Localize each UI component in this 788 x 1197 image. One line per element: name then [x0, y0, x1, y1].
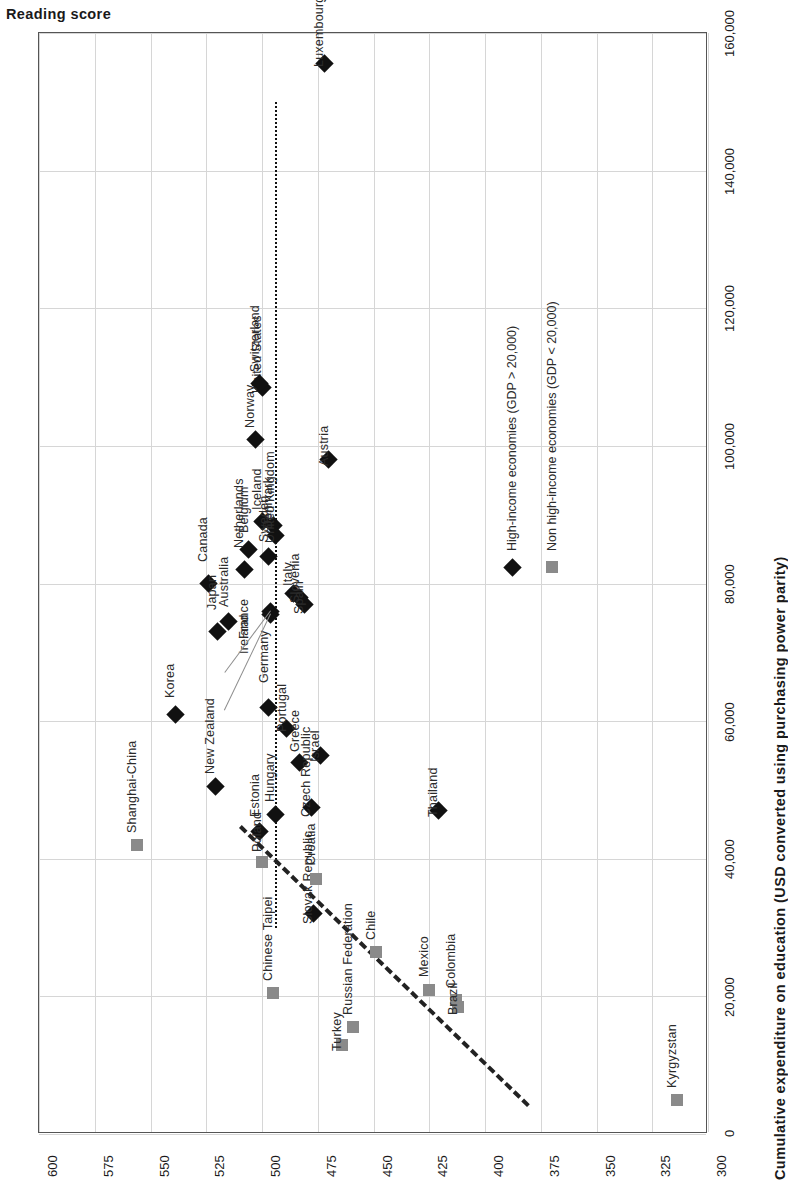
- x-axis-tick-label: 60,000: [722, 702, 737, 742]
- gridline-horizontal: [39, 584, 706, 585]
- y-axis-tick-label: 300: [714, 1155, 729, 1177]
- data-point-label: Sweden: [257, 496, 271, 542]
- data-point-label: Switzerland: [248, 305, 262, 372]
- square-marker-icon: [267, 987, 279, 999]
- y-axis-tick-label: 375: [547, 1155, 562, 1177]
- plot-area: LuxembourgUnited StatesSwitzerlandNorway…: [38, 32, 707, 1133]
- square-marker-icon: [256, 856, 268, 868]
- gridline-horizontal: [39, 171, 706, 172]
- gridline-vertical: [708, 33, 709, 1132]
- y-axis-tick-label: 525: [212, 1155, 227, 1177]
- gridline-horizontal: [39, 308, 706, 309]
- data-point-label: Turkey: [330, 1012, 344, 1051]
- gridline-vertical: [374, 33, 375, 1132]
- data-point-label: Colombia: [444, 933, 458, 987]
- y-axis-tick-label: 550: [157, 1155, 172, 1177]
- y-axis-title: Reading score: [6, 6, 111, 22]
- data-point-label: Luxembourg: [312, 0, 326, 67]
- data-point-label: Canada: [196, 517, 210, 562]
- data-point-label: Shanghai-China: [125, 741, 139, 833]
- data-point-label: Estonia: [248, 774, 262, 817]
- square-marker-icon: [423, 984, 435, 996]
- x-axis-tick-label: 40,000: [722, 840, 737, 880]
- y-axis-tick-label: 350: [603, 1155, 618, 1177]
- data-point-label: Chinese Taipei: [261, 896, 275, 981]
- x-axis-tick-label: 80,000: [722, 564, 737, 604]
- gridline-vertical: [318, 33, 319, 1132]
- gridline-vertical: [652, 33, 653, 1132]
- y-axis-tick-label: 400: [491, 1155, 506, 1177]
- x-axis-tick-label: 0: [722, 1129, 737, 1136]
- x-axis-title: Cumulative expenditure on education (USD…: [772, 556, 788, 1180]
- gridline-horizontal: [39, 996, 706, 997]
- x-axis-tick-label: 100,000: [722, 423, 737, 470]
- data-point-label: Ireland: [237, 615, 251, 655]
- y-axis-tick-label: 325: [658, 1155, 673, 1177]
- y-axis-tick-label: 475: [324, 1155, 339, 1177]
- data-point-label: Chile: [364, 910, 378, 940]
- trend-line: [240, 825, 530, 1107]
- data-point-label: Croatia: [304, 824, 318, 866]
- gridline-vertical: [485, 33, 486, 1132]
- gridline-horizontal: [39, 1134, 706, 1135]
- gridline-vertical: [541, 33, 542, 1132]
- gridline-vertical: [597, 33, 598, 1132]
- legend-label: High-income economies (GDP > 20,000): [505, 326, 519, 551]
- square-marker-icon: [131, 839, 143, 851]
- gridline-vertical: [95, 33, 96, 1132]
- square-marker-icon: [347, 1021, 359, 1033]
- data-point-label: Mexico: [417, 937, 431, 978]
- data-point-label: Russian Federation: [341, 903, 355, 1015]
- data-point-label: Austria: [317, 425, 331, 465]
- y-axis-tick-label: 425: [435, 1155, 450, 1177]
- data-point-label: Brazil: [446, 982, 460, 1014]
- diamond-marker-icon: [235, 560, 253, 578]
- diamond-marker-icon: [206, 777, 224, 795]
- square-marker-icon: [370, 946, 382, 958]
- gridline-horizontal: [39, 446, 706, 447]
- y-axis-tick-label: 500: [268, 1155, 283, 1177]
- gridline-horizontal: [39, 859, 706, 860]
- square-marker-icon: [310, 873, 322, 885]
- data-point-label: Spain: [292, 581, 306, 614]
- y-axis-tick-label: 575: [101, 1155, 116, 1177]
- data-point-label: Hungary: [263, 753, 277, 802]
- data-point-label: Portugal: [275, 684, 289, 732]
- data-point-label: Norway: [243, 384, 257, 428]
- x-axis-tick-label: 160,000: [722, 10, 737, 57]
- data-point-label: Czech Republic: [299, 727, 313, 817]
- square-marker-icon: [671, 1094, 683, 1106]
- data-point-label: Kyrgyzstan: [665, 1024, 679, 1088]
- y-axis-tick-label: 450: [380, 1155, 395, 1177]
- data-point-label: Netherlands: [232, 478, 246, 548]
- gridline-vertical: [151, 33, 152, 1132]
- legend-square-marker-icon: [546, 561, 558, 573]
- x-axis-tick-label: 120,000: [722, 285, 737, 332]
- data-point-label: New Zealand: [203, 699, 217, 775]
- gridline-horizontal: [39, 33, 706, 34]
- gridline-horizontal: [39, 721, 706, 722]
- gridline-vertical: [39, 33, 40, 1132]
- x-axis-tick-label: 20,000: [722, 977, 737, 1017]
- data-point-label: Thailand: [426, 767, 440, 817]
- x-axis-tick-label: 140,000: [722, 148, 737, 195]
- data-point-label: Poland: [250, 812, 264, 852]
- legend-label: Non high-income economies (GDP < 20,000): [545, 301, 559, 551]
- scatter-chart: Reading score Cumulative expenditure on …: [0, 0, 788, 1197]
- data-point-label: Korea: [163, 664, 177, 698]
- diamond-marker-icon: [266, 805, 284, 823]
- data-point-label: Japan: [205, 575, 219, 610]
- y-axis-tick-label: 600: [45, 1155, 60, 1177]
